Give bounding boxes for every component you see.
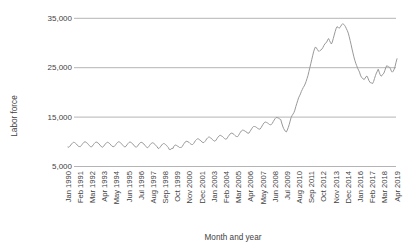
labor-force-series-line bbox=[68, 24, 397, 150]
x-tick-label: Jul 1996 bbox=[137, 171, 146, 200]
x-axis-tick-labels: Jan 1990Feb 1991Mar 1992Apr 1993May 1994… bbox=[64, 171, 402, 204]
x-tick-label: Oct 1999 bbox=[173, 171, 182, 202]
x-tick-label: May 2007 bbox=[259, 171, 268, 204]
x-tick-label: Aug 1997 bbox=[149, 171, 158, 204]
x-tick-label: Nov 2013 bbox=[332, 171, 341, 204]
y-tick-label: 35,000 bbox=[48, 14, 73, 23]
x-tick-label: Jan 2016 bbox=[356, 171, 365, 202]
x-tick-label: Feb 2017 bbox=[368, 171, 377, 203]
x-tick-label: Apr 2019 bbox=[393, 171, 402, 202]
x-tick-label: Feb 2004 bbox=[222, 171, 231, 203]
x-tick-label: Mar 2018 bbox=[380, 171, 389, 203]
labor-force-chart: 5,00015,00025,00035,000 Jan 1990Feb 1991… bbox=[0, 0, 409, 250]
x-tick-label: Apr 1993 bbox=[100, 171, 109, 202]
labor-force-chart-canvas: 5,00015,00025,00035,000 Jan 1990Feb 1991… bbox=[0, 0, 409, 250]
x-tick-label: Dec 2001 bbox=[198, 171, 207, 204]
y-tick-label: 15,000 bbox=[48, 113, 73, 122]
x-tick-label: Apr 2006 bbox=[246, 171, 255, 202]
x-tick-label: Mar 1992 bbox=[88, 171, 97, 203]
x-tick-label: Jun 2008 bbox=[271, 171, 280, 202]
y-tick-label: 25,000 bbox=[48, 63, 73, 72]
x-tick-label: Aug 2010 bbox=[295, 171, 304, 204]
y-tick-label: 5,000 bbox=[52, 162, 73, 171]
x-tick-label: Mar 2005 bbox=[234, 171, 243, 203]
y-axis-title: Labor force bbox=[10, 95, 19, 137]
x-tick-label: Jan 2003 bbox=[210, 171, 219, 202]
x-tick-label: Nov 2000 bbox=[185, 171, 194, 204]
x-tick-label: Oct 2012 bbox=[319, 171, 328, 202]
x-tick-label: Jul 2009 bbox=[283, 171, 292, 200]
x-tick-label: Jun 1995 bbox=[125, 171, 134, 202]
x-tick-label: Feb 1991 bbox=[76, 171, 85, 203]
x-tick-label: Sep 2011 bbox=[307, 171, 316, 203]
x-axis-title: Month and year bbox=[205, 233, 262, 242]
x-tick-label: Jan 1990 bbox=[64, 171, 73, 202]
x-tick-label: May 1994 bbox=[112, 171, 121, 204]
x-tick-label: Dec 2014 bbox=[344, 171, 353, 204]
x-tick-label: Sep 1998 bbox=[161, 171, 170, 204]
